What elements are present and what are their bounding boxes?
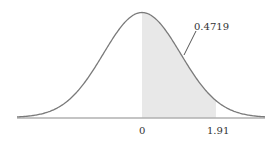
annotation-leader-line (184, 31, 196, 55)
x-tick-label-zero: 0 (139, 126, 145, 136)
annotation-label: 0.4719 (194, 22, 229, 32)
normal-curve-chart (0, 0, 279, 143)
x-tick-label-z: 1.91 (207, 126, 229, 136)
